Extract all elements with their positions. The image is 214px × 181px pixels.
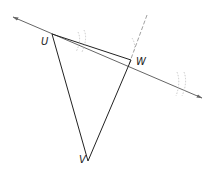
- label-v: V: [79, 155, 86, 165]
- label-w: W: [136, 57, 146, 67]
- diagram-drawing: [0, 0, 214, 181]
- construction-arcs: [76, 30, 186, 96]
- label-u: U: [41, 37, 48, 47]
- line-through-u: [13, 17, 202, 98]
- triangle-uwv: [52, 34, 131, 161]
- geometry-diagram: U W V: [0, 0, 214, 181]
